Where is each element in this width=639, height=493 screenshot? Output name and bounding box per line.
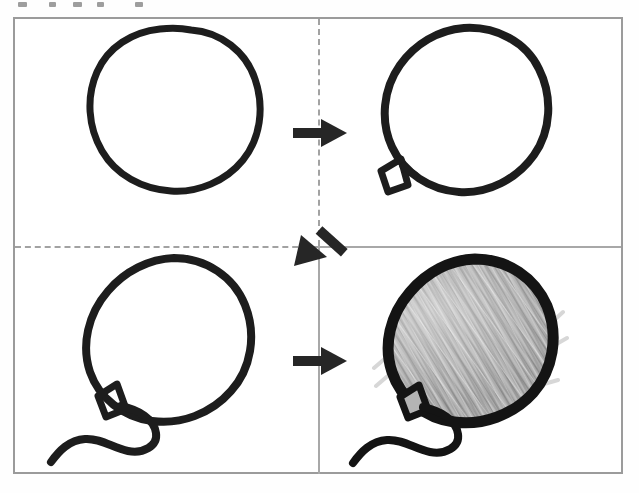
arrow-right-icon [293, 347, 347, 375]
arrow-step-2-to-step-3 [291, 215, 351, 273]
panel-step-1[interactable] [15, 19, 318, 246]
balloon-body-outline [86, 258, 251, 422]
arrow-step-1-to-step-2 [292, 114, 348, 152]
balloon-body-outline [90, 28, 260, 191]
arrow-right-icon [293, 119, 347, 147]
balloon-knot [381, 159, 415, 192]
cut-off-caption-remnant [0, 0, 639, 14]
balloon-drawing-steps-figure [0, 0, 639, 493]
panel-step-2[interactable] [318, 19, 621, 246]
pencil-shading [318, 246, 621, 474]
panel-step-3[interactable] [15, 246, 318, 474]
figure-frame [13, 17, 623, 474]
arrow-down-left-icon [294, 226, 348, 266]
arrow-step-3-to-step-4 [292, 342, 348, 380]
panel-step-4[interactable] [318, 246, 621, 474]
